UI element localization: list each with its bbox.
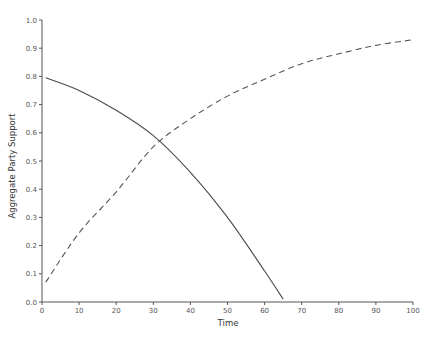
x-tick-label: 60 xyxy=(260,307,269,315)
y-tick-label: 0.8 xyxy=(26,73,37,81)
y-tick-label: 0.1 xyxy=(26,270,37,278)
x-tick-label: 20 xyxy=(112,307,121,315)
y-axis: 0.00.10.20.30.40.50.60.70.80.91.0 xyxy=(26,17,42,307)
y-tick-label: 0.3 xyxy=(26,214,37,222)
x-tick-label: 50 xyxy=(223,307,232,315)
plot-series xyxy=(46,40,413,299)
y-axis-label: Aggregate Party Support xyxy=(7,113,17,219)
x-tick-label: 70 xyxy=(297,307,306,315)
y-tick-label: 1.0 xyxy=(26,17,37,25)
x-axis-label: Time xyxy=(217,318,239,328)
x-axis: 0102030405060708090100 xyxy=(40,302,420,315)
y-tick-label: 0.5 xyxy=(26,158,37,166)
x-tick-label: 100 xyxy=(406,307,419,315)
x-tick-label: 30 xyxy=(149,307,158,315)
x-tick-label: 0 xyxy=(40,307,44,315)
solid-series-line xyxy=(46,78,283,299)
y-tick-label: 0.4 xyxy=(26,186,38,194)
x-tick-label: 90 xyxy=(371,307,380,315)
x-tick-label: 80 xyxy=(334,307,343,315)
y-tick-label: 0.0 xyxy=(26,299,37,307)
x-tick-label: 40 xyxy=(186,307,195,315)
x-tick-label: 10 xyxy=(75,307,84,315)
dashed-series-line xyxy=(46,40,413,283)
line-chart: 0.00.10.20.30.40.50.60.70.80.91.0 010203… xyxy=(0,0,434,343)
y-tick-label: 0.2 xyxy=(26,242,37,250)
y-tick-label: 0.9 xyxy=(26,45,37,53)
y-tick-label: 0.7 xyxy=(26,101,37,109)
y-tick-label: 0.6 xyxy=(26,129,38,137)
